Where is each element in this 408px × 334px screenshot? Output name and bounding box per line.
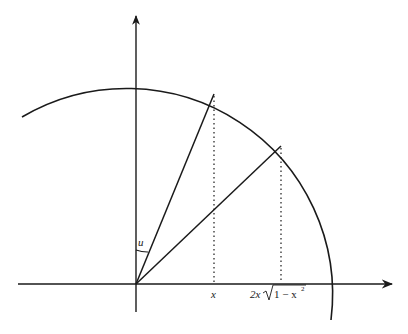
x-tick-label-1: x — [210, 288, 216, 300]
x-tick-label-2: 2x 1 − x 2 — [250, 285, 306, 300]
diagram-canvas: u x 2x 1 − x 2 — [0, 0, 408, 334]
x-tick-2-prefix: 2x — [250, 288, 261, 300]
angle-arc — [136, 250, 148, 252]
angle-label: u — [138, 236, 144, 248]
x-tick-2-exponent: 2 — [301, 285, 305, 293]
radius-1 — [136, 94, 214, 284]
radius-2 — [136, 146, 281, 284]
x-tick-2-radicand: 1 − x — [274, 288, 297, 300]
